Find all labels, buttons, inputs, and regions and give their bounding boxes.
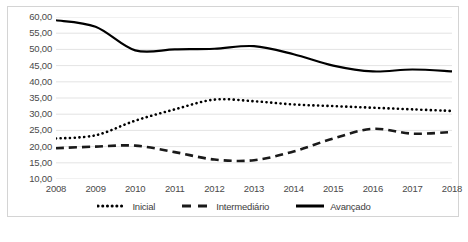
- legend-swatch-solid: [295, 201, 325, 211]
- x-axis-tick-label: 2010: [117, 183, 153, 194]
- y-axis-tick-label: 20,00: [29, 142, 52, 152]
- x-axis-tick-label: 2012: [196, 183, 232, 194]
- legend-item-avanado[interactable]: Avançado: [295, 201, 370, 212]
- x-axis-tick-label: 2017: [394, 183, 430, 194]
- legend-label: Avançado: [330, 201, 370, 212]
- series-line-intermedirio: [56, 129, 452, 161]
- legend-label: Inicial: [132, 201, 155, 212]
- chart-plot: [56, 17, 452, 179]
- y-axis-tick-label: 35,00: [29, 93, 52, 103]
- y-axis-labels: 60,0055,0050,0045,0040,0035,0030,0025,00…: [16, 17, 52, 179]
- chart-card: 60,0055,0050,0045,0040,0035,0030,0025,00…: [7, 6, 459, 217]
- x-axis-tick-label: 2018: [434, 183, 468, 194]
- legend-swatch-dashed: [181, 201, 211, 211]
- x-axis-tick-label: 2014: [276, 183, 312, 194]
- legend-item-intermedirio[interactable]: Intermediário: [181, 201, 269, 212]
- y-axis-tick-label: 45,00: [29, 61, 52, 71]
- x-axis-tick-label: 2011: [157, 183, 193, 194]
- chart-legend: InicialIntermediárioAvançado: [8, 197, 460, 215]
- y-axis-tick-label: 25,00: [29, 125, 52, 135]
- series-line-inicial: [56, 99, 452, 138]
- y-axis-tick-label: 50,00: [29, 44, 52, 54]
- legend-swatch-dotted: [97, 201, 127, 211]
- legend-label: Intermediário: [216, 201, 269, 212]
- x-axis-tick-label: 2015: [315, 183, 351, 194]
- plot-area: 60,0055,0050,0045,0040,0035,0030,0025,00…: [8, 7, 460, 218]
- x-axis-tick-label: 2008: [38, 183, 74, 194]
- y-axis-tick-label: 30,00: [29, 109, 52, 119]
- y-axis-tick-label: 40,00: [29, 77, 52, 87]
- y-axis-tick-label: 15,00: [29, 158, 52, 168]
- series-line-avanado: [56, 20, 452, 71]
- y-axis-tick-label: 55,00: [29, 28, 52, 38]
- x-axis-tick-label: 2013: [236, 183, 272, 194]
- x-axis-labels: 2008200920102011201220132014201520162017…: [56, 183, 452, 197]
- x-axis-tick-label: 2016: [355, 183, 391, 194]
- legend-item-inicial[interactable]: Inicial: [97, 201, 155, 212]
- x-axis-tick-label: 2009: [78, 183, 114, 194]
- y-axis-tick-label: 60,00: [29, 12, 52, 22]
